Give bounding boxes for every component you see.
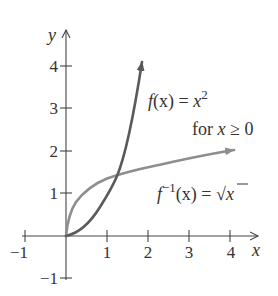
y-tick-label-4: 4: [50, 57, 59, 76]
y-tick-label-neg1: −1: [40, 269, 58, 288]
curve-parabola: [66, 62, 142, 236]
x-tick-label-neg1: −1: [10, 243, 28, 262]
y-axis-label: y: [46, 25, 56, 45]
y-tick-label-3: 3: [50, 99, 59, 118]
x-tick-label-1: 1: [103, 243, 112, 262]
x-tick-label-4: 4: [227, 243, 236, 262]
annotation-finv: f−1(x) = √x: [157, 180, 234, 205]
chart: −1 1 2 3 4 x −1 1 2 3 4 y f(x) = x2 for …: [0, 0, 278, 296]
annotation-f: f(x) = x2: [148, 87, 208, 112]
y-tick-label-2: 2: [50, 142, 59, 161]
x-tick-label-2: 2: [144, 243, 153, 262]
x-tick-label-3: 3: [185, 243, 194, 262]
y-tick-label-1: 1: [50, 184, 59, 203]
annotation-domain: for x ≥ 0: [192, 119, 253, 139]
x-axis-label: x: [251, 240, 260, 260]
